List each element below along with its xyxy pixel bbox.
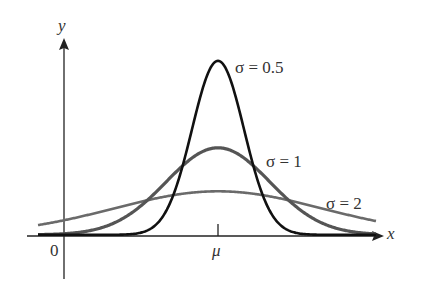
sigma-1-label: σ = 1 (266, 152, 302, 172)
sigma-2-label: σ = 2 (326, 194, 362, 214)
y-axis-label: y (58, 16, 66, 36)
origin-label: 0 (50, 241, 59, 261)
x-axis-label: x (387, 224, 395, 244)
mu-label: μ (212, 241, 221, 261)
sigma-0.5-label: σ = 0.5 (235, 58, 284, 78)
